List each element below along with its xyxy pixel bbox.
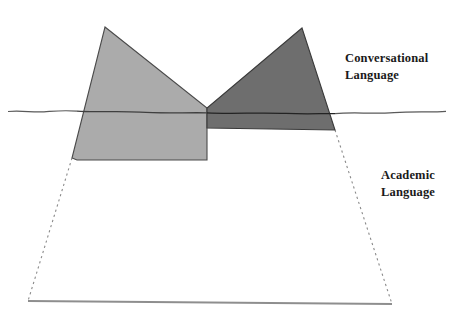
waterline-left: [8, 111, 77, 112]
light-gray-iceberg-peak: [72, 27, 207, 160]
label-conversational-language: Conversational Language: [345, 50, 428, 83]
iceberg-illustration: [0, 0, 458, 322]
iceberg-diagram: Conversational Language Academic Languag…: [0, 0, 458, 322]
waterline-right: [335, 111, 446, 113]
label-academic-language: Academic Language: [381, 167, 435, 200]
dark-gray-iceberg-peak: [207, 28, 335, 130]
